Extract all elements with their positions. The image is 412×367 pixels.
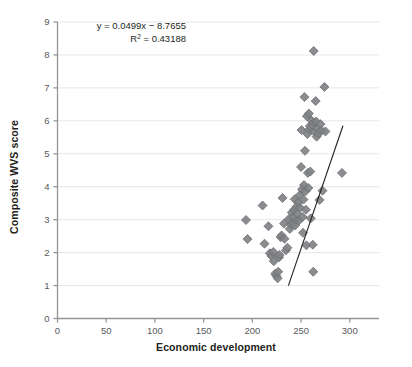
y-tick-label: 5 xyxy=(44,148,49,159)
data-point xyxy=(278,193,287,202)
scatter-chart: 0123456789 050100150200250300 y = 0.0499… xyxy=(0,0,412,367)
data-point xyxy=(337,168,346,177)
r-squared-text: R2 = 0.43188 xyxy=(130,33,186,44)
y-tick-label: 6 xyxy=(44,115,49,126)
y-tick-label: 0 xyxy=(44,313,49,324)
y-tick-label: 7 xyxy=(44,82,49,93)
x-tick-label: 0 xyxy=(55,325,60,336)
x-axis-title: Economic development xyxy=(46,341,386,353)
data-point xyxy=(243,235,252,244)
data-point-series xyxy=(242,46,347,282)
data-point xyxy=(320,82,329,91)
data-point xyxy=(308,240,317,249)
data-point xyxy=(309,46,318,55)
y-tick-label: 8 xyxy=(44,49,49,60)
data-point xyxy=(260,239,269,248)
x-tick-label: 200 xyxy=(244,325,260,336)
y-axis-title: Composite WVS score xyxy=(8,27,26,327)
gridlines xyxy=(58,22,380,286)
y-tick-label: 3 xyxy=(44,214,49,225)
data-point xyxy=(311,97,320,106)
data-point xyxy=(258,201,267,210)
data-point xyxy=(242,215,251,224)
data-point xyxy=(264,222,273,231)
y-tick-label: 4 xyxy=(44,181,49,192)
y-tick-label: 2 xyxy=(44,247,49,258)
x-tick-label: 50 xyxy=(101,325,112,336)
data-point xyxy=(309,267,318,276)
y-tick-label: 9 xyxy=(44,16,49,27)
x-tick-labels: 050100150200250300 xyxy=(55,325,358,336)
y-tick-labels: 0123456789 xyxy=(44,16,49,324)
x-tick-label: 300 xyxy=(342,325,358,336)
x-tick-label: 150 xyxy=(196,325,212,336)
y-tick-label: 1 xyxy=(44,280,49,291)
regression-annotation: y = 0.0499x − 8.7655 R2 = 0.43188 xyxy=(97,20,186,44)
x-axis xyxy=(58,319,380,323)
data-point xyxy=(300,93,309,102)
plot-area: 0123456789 050100150200250300 y = 0.0499… xyxy=(0,0,412,367)
x-tick-label: 100 xyxy=(147,325,163,336)
x-tick-label: 250 xyxy=(293,325,309,336)
regression-equation-text: y = 0.0499x − 8.7655 xyxy=(97,20,186,31)
data-point xyxy=(297,162,306,171)
y-axis xyxy=(54,22,58,319)
